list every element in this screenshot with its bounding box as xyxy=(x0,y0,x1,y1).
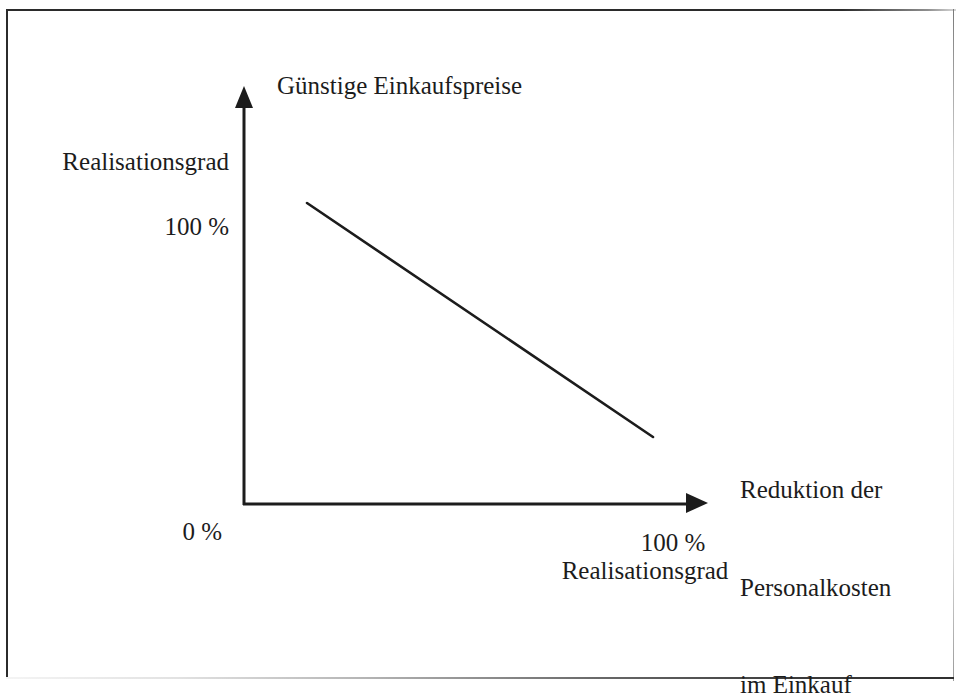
series-caption-line-1: Reduktion der xyxy=(740,474,891,507)
y-axis-max-tick: 100 % xyxy=(164,213,229,240)
y-axis-tick-block: Realisationsgrad 100 % xyxy=(18,113,229,276)
y-axis-label-text: Realisationsgrad xyxy=(62,148,229,175)
origin-tick-label: 0 % xyxy=(110,516,222,549)
x-axis-series-caption: Reduktion der Personalkosten im Einkauf xyxy=(740,409,891,697)
x-axis-label-text: Realisationsgrad xyxy=(530,555,760,588)
series-caption-line-2: Personalkosten xyxy=(740,572,891,605)
trade-off-line xyxy=(307,203,653,437)
x-axis-arrowhead xyxy=(686,493,708,513)
y-axis-arrowhead xyxy=(235,86,253,108)
series-caption-line-3: im Einkauf xyxy=(740,669,891,697)
chart-title-vertical-axis: Günstige Einkaufspreise xyxy=(277,70,522,103)
